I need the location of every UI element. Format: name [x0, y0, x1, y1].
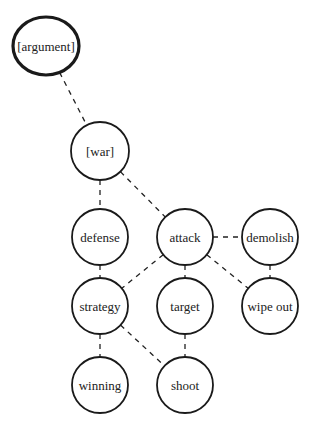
node-label: attack [169, 230, 201, 245]
node-label: strategy [79, 299, 121, 314]
nodes-layer: [argument][war]defenseattackdemolishstra… [13, 17, 298, 413]
edge-attack-to-wipe-out [207, 255, 249, 289]
node-argument: [argument] [13, 17, 79, 75]
node-winning: winning [72, 357, 128, 413]
node-wipe-out: wipe out [242, 278, 298, 334]
node-label: defense [80, 230, 120, 245]
node-label: [argument] [17, 39, 75, 54]
node-strategy: strategy [72, 278, 128, 334]
edge-war-to-attack [120, 172, 165, 217]
edge-attack-to-strategy [122, 255, 164, 289]
node-label: shoot [171, 378, 200, 393]
node-label: [war] [86, 144, 114, 159]
edge-argument-to-war [60, 72, 87, 125]
node-defense: defense [72, 209, 128, 265]
edge-strategy-to-shoot [121, 325, 165, 366]
node-demolish: demolish [242, 209, 298, 265]
node-attack: attack [157, 209, 213, 265]
node-war: [war] [71, 122, 129, 180]
node-label: target [170, 299, 200, 314]
node-label: wipe out [247, 299, 293, 314]
node-shoot: shoot [157, 357, 213, 413]
node-target: target [157, 278, 213, 334]
node-label: demolish [246, 230, 294, 245]
node-label: winning [79, 378, 122, 393]
concept-diagram: [argument][war]defenseattackdemolishstra… [0, 0, 313, 436]
